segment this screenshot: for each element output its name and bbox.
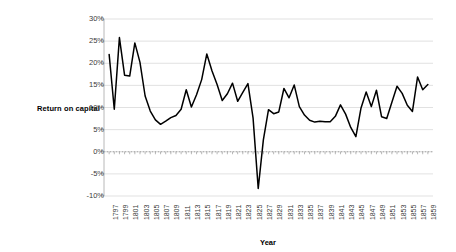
x-tick-label: 1843 xyxy=(348,205,355,220)
x-tick-label: 1855 xyxy=(410,205,417,220)
x-tick-label: 1837 xyxy=(317,205,324,220)
x-tick-label: 1857 xyxy=(420,205,427,220)
x-tick-label: 1803 xyxy=(143,205,150,220)
x-tick-label: 1831 xyxy=(287,205,294,220)
x-tick-label: 1845 xyxy=(358,205,365,220)
x-tick-label: 1801 xyxy=(132,205,139,220)
x-tick-label: 1833 xyxy=(297,205,304,220)
x-tick-label: 1853 xyxy=(400,205,407,220)
x-tick-label: 1807 xyxy=(163,205,170,220)
x-tick-label: 1817 xyxy=(215,205,222,220)
x-tick-label: 1859 xyxy=(430,205,437,220)
x-tick-label: 1811 xyxy=(184,205,191,220)
x-tick-label: 1827 xyxy=(266,205,273,220)
x-tick-label: 1815 xyxy=(204,205,211,220)
x-tick-label: 1797 xyxy=(112,205,119,220)
x-tick-label: 1851 xyxy=(389,205,396,220)
x-tick-label: 1805 xyxy=(153,205,160,220)
x-tick-label: 1835 xyxy=(307,205,314,220)
x-tick-label: 1799 xyxy=(122,205,129,220)
x-tick-label: 1849 xyxy=(379,205,386,220)
x-tick-label: 1821 xyxy=(235,205,242,220)
x-tick-label: 1841 xyxy=(338,205,345,220)
x-tick-label: 1809 xyxy=(173,205,180,220)
x-tick-label: 1823 xyxy=(245,205,252,220)
chart-container: Return on capital 30%25%20%15%10%5%0%-5%… xyxy=(0,0,456,252)
x-tick-label: 1839 xyxy=(328,205,335,220)
x-tick-label: 1829 xyxy=(276,205,283,220)
x-axis-title: Year xyxy=(238,238,298,247)
x-tick-label: 1813 xyxy=(194,205,201,220)
x-tick-label: 1825 xyxy=(256,205,263,220)
x-axis-tick-labels: 1797179918011803180518071809181118131815… xyxy=(0,0,456,252)
x-tick-label: 1819 xyxy=(225,205,232,220)
x-tick-label: 1847 xyxy=(369,205,376,220)
